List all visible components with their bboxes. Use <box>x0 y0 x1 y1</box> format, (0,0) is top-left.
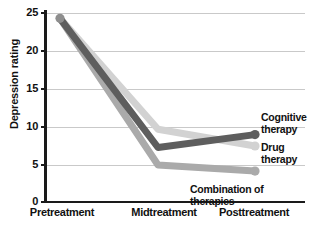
series-line-combination-of-therapies <box>60 18 260 175</box>
y-tick-mark-5 <box>41 164 45 166</box>
series-lines-group <box>47 10 305 202</box>
y-axis-line <box>44 10 47 203</box>
series-label-combination-of-therapies: Combination of therapies <box>190 184 310 207</box>
y-tick-mark-15 <box>41 88 45 90</box>
depression-rating-line-chart: 25 20 15 10 5 0 Depression rating Pretre… <box>0 0 310 245</box>
x-tick-label-midtreatment: Midtreatment <box>123 206 205 218</box>
series-label-drug-therapy: Drug therapy <box>261 142 297 165</box>
series-label-cognitive-line2: therapy <box>261 124 307 136</box>
y-tick-mark-10 <box>41 126 45 128</box>
series-label-drug-line1: Drug <box>261 142 297 154</box>
y-tick-label-25: 25 <box>0 6 38 18</box>
y-tick-label-5: 5 <box>0 158 38 170</box>
y-tick-mark-20 <box>41 50 45 52</box>
y-axis-title: Depression rating <box>8 24 20 144</box>
x-tick-label-pretreatment: Pretreatment <box>22 206 102 218</box>
plot-area <box>47 10 305 202</box>
y-tick-mark-0 <box>41 201 45 203</box>
series-label-cognitive-line1: Cognitive <box>261 112 307 124</box>
series-label-drug-line2: therapy <box>261 154 297 166</box>
x-tick-label-posttreatment: Posttreatment <box>212 206 296 218</box>
y-tick-mark-25 <box>41 12 45 14</box>
series-line-drug-therapy <box>60 18 260 150</box>
series-label-cognitive-therapy: Cognitive therapy <box>261 112 307 135</box>
